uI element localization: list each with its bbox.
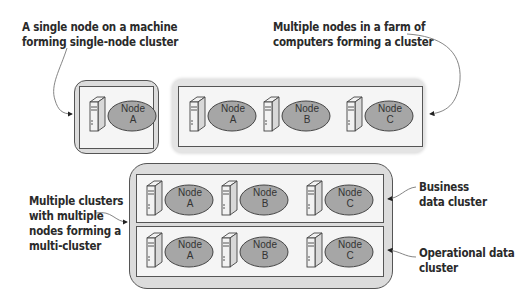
node-farm-a: Node A — [188, 94, 246, 134]
annotation-line: Multiple clusters — [29, 194, 123, 209]
annotation-line: A single node on a machine — [22, 20, 178, 35]
annotation-multi-cluster: Multiple clusters with multiple nodes fo… — [29, 194, 123, 254]
annotation-line: Multiple nodes in a farm of — [273, 20, 434, 35]
node-business-c: Node C — [305, 178, 363, 218]
arrow-single-node — [54, 48, 72, 114]
node-operational-a: Node A — [145, 230, 203, 270]
annotation-line: computers forming a cluster — [273, 35, 434, 50]
node-id: A — [167, 198, 213, 209]
node-name: Node — [210, 103, 256, 114]
node-label: Node A — [167, 187, 213, 209]
annotation-single-node: A single node on a machine forming singl… — [22, 20, 178, 50]
node-name: Node — [110, 103, 156, 114]
node-label: Node B — [242, 187, 288, 209]
node-id: B — [242, 250, 288, 261]
annotation-line: multi-cluster — [29, 239, 123, 254]
node-operational-c: Node C — [305, 230, 363, 270]
node-label: Node A — [110, 103, 156, 125]
node-name: Node — [167, 187, 213, 198]
node-id: A — [110, 114, 156, 125]
node-label: Node C — [367, 103, 413, 125]
node-name: Node — [167, 239, 213, 250]
node-label: Node A — [167, 239, 213, 261]
node-label: Node A — [210, 103, 256, 125]
node-label: Node C — [327, 187, 373, 209]
node-id: B — [242, 198, 288, 209]
node-farm-c: Node C — [345, 94, 403, 134]
node-business-a: Node A — [145, 178, 203, 218]
annotation-line: Business — [419, 180, 487, 195]
annotation-line: data cluster — [419, 195, 487, 210]
node-id: A — [167, 250, 213, 261]
annotation-line: nodes forming a — [29, 224, 123, 239]
annotation-line: forming single-node cluster — [22, 35, 178, 50]
node-operational-b: Node B — [220, 230, 278, 270]
node-label: Node C — [327, 239, 373, 261]
node-id: C — [367, 114, 413, 125]
node-name: Node — [327, 239, 373, 250]
node-name: Node — [367, 103, 413, 114]
annotation-operational-cluster: Operational data cluster — [419, 246, 515, 276]
annotation-farm: Multiple nodes in a farm of computers fo… — [273, 20, 434, 50]
node-business-b: Node B — [220, 178, 278, 218]
node-name: Node — [327, 187, 373, 198]
node-label: Node B — [242, 239, 288, 261]
node-id: B — [284, 114, 330, 125]
node-id: C — [327, 250, 373, 261]
node-name: Node — [284, 103, 330, 114]
node-id: C — [327, 198, 373, 209]
annotation-line: cluster — [419, 261, 515, 276]
node-name: Node — [242, 187, 288, 198]
node-label: Node B — [284, 103, 330, 125]
annotation-line: Operational data — [419, 246, 515, 261]
node-id: A — [210, 114, 256, 125]
node-name: Node — [242, 239, 288, 250]
annotation-business-cluster: Business data cluster — [419, 180, 487, 210]
node-farm-b: Node B — [262, 94, 320, 134]
annotation-line: with multiple — [29, 209, 123, 224]
node-single-a: Node A — [88, 94, 146, 134]
